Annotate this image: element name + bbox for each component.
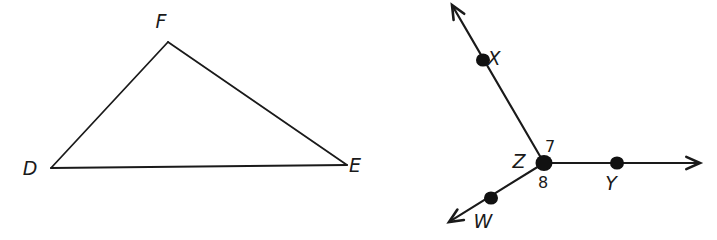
vertex-label-d: D — [23, 157, 38, 179]
figure-canvas: D E F Z X Y W 7 8 — [0, 0, 717, 240]
triangle-side-DF — [51, 42, 168, 168]
point-dot-y — [610, 156, 624, 169]
point-dot-z — [536, 155, 553, 171]
point-dot-w — [484, 191, 498, 204]
vertex-label-e: E — [349, 154, 361, 176]
point-label-w: W — [474, 210, 494, 232]
point-label-y: Y — [605, 172, 618, 194]
angle-label-8: 8 — [538, 173, 548, 192]
arrowhead-zw-icon — [449, 210, 464, 222]
angle-label-7: 7 — [545, 137, 555, 156]
point-label-x: X — [486, 47, 501, 69]
geometry-figure-svg: D E F Z X Y W 7 8 — [0, 0, 717, 240]
triangle-side-DE — [51, 165, 347, 168]
triangle-def: D E F — [23, 10, 361, 179]
point-label-z: Z — [511, 150, 526, 172]
vertex-label-f: F — [156, 10, 168, 32]
arrowhead-zx-icon — [452, 5, 464, 20]
triangle-side-FE — [168, 42, 347, 165]
ray-zx-line — [454, 8, 545, 163]
rays-from-z: Z X Y W 7 8 — [449, 5, 700, 232]
ray-zw-line — [452, 163, 545, 220]
